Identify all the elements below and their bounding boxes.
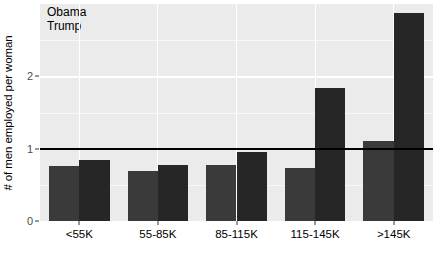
legend-entry-obama: Obama xyxy=(47,6,86,20)
x-tick-label-0: <55K xyxy=(66,228,93,240)
bar-obama-1 xyxy=(128,171,158,221)
bar-trump-1 xyxy=(158,165,188,221)
cropped-title-remnant xyxy=(0,0,437,3)
x-tick-mark-3 xyxy=(315,221,316,225)
x-tick-label-4: >145K xyxy=(377,228,411,240)
bar-trump-2 xyxy=(237,152,267,221)
x-tick-label-2: 85-115K xyxy=(215,228,258,240)
y-tick-label-0: 0 xyxy=(27,215,33,227)
x-tick-mark-1 xyxy=(157,221,158,225)
bar-trump-0 xyxy=(79,160,109,221)
plot-panel: Obama Trump xyxy=(40,4,433,221)
legend: Obama Trump xyxy=(47,6,86,33)
y-axis-ticks: 012 xyxy=(16,0,40,226)
y-axis-title: # of men employed per woman xyxy=(0,0,16,226)
x-tick-mark-0 xyxy=(79,221,80,225)
y-tick-mark-0 xyxy=(35,221,39,222)
y-tick-label-2: 2 xyxy=(27,70,33,82)
y-tick-label-1: 1 xyxy=(27,143,33,155)
bar-obama-4 xyxy=(363,141,393,221)
reference-line-parity xyxy=(40,148,433,150)
bar-trump-3 xyxy=(315,88,345,221)
x-axis: <55K55-85K85-115K115-145K>145K xyxy=(40,221,433,256)
y-axis-title-text: # of men employed per woman xyxy=(2,35,14,190)
bar-obama-2 xyxy=(206,165,236,221)
bar-chart-figure: # of men employed per woman 012 Obama Tr… xyxy=(0,0,437,256)
x-tick-mark-2 xyxy=(236,221,237,225)
x-tick-label-1: 55-85K xyxy=(139,228,176,240)
legend-entry-trump: Trump xyxy=(47,20,86,34)
bar-trump-4 xyxy=(394,13,424,221)
y-tick-mark-2 xyxy=(35,76,39,77)
x-tick-label-3: 115-145K xyxy=(291,228,340,240)
y-tick-mark-1 xyxy=(35,148,39,149)
x-tick-mark-4 xyxy=(393,221,394,225)
bar-obama-3 xyxy=(285,168,315,221)
bar-obama-0 xyxy=(49,166,79,221)
